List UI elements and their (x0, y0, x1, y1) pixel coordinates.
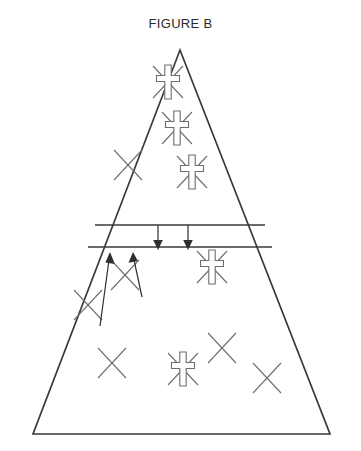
diagram-svg (0, 0, 361, 451)
symbol-upper-cross-3 (177, 155, 207, 189)
symbol-lower-x-5 (253, 363, 281, 393)
symbol-lower-x-4 (208, 333, 236, 363)
symbol-lower-x-3 (98, 348, 126, 378)
symbol-lower-x-2 (74, 290, 102, 320)
symbol-upper-cross-2 (162, 111, 192, 145)
symbol-upper-cross-1 (153, 65, 183, 99)
figure-canvas: FIGURE B (0, 0, 361, 451)
symbol-lower-cross-1 (197, 250, 227, 284)
up-arrow-2 (129, 252, 143, 297)
symbol-upper-x-1 (114, 150, 142, 180)
symbol-lower-cross-2 (168, 352, 198, 386)
